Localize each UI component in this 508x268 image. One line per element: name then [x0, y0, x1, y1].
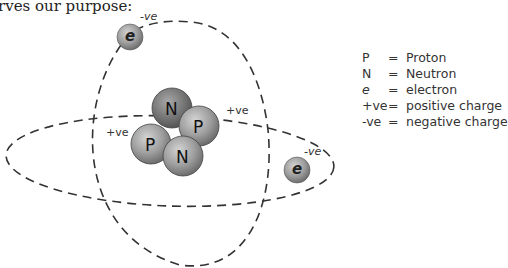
legend-equals: =: [388, 82, 406, 98]
legend-equals: =: [388, 50, 406, 66]
legend-row-positive: +ve = positive charge: [362, 98, 508, 114]
legend-row-neutron: N = Neutron: [362, 66, 508, 82]
legend-row-electron: e = electron: [362, 82, 508, 98]
electron-charge-right: -ve: [304, 145, 321, 158]
legend-equals: =: [388, 66, 406, 82]
atom-diagram: [0, 0, 508, 268]
legend-description: positive charge: [406, 98, 502, 114]
electron-label-top: e: [125, 27, 135, 45]
legend-symbol: +ve: [362, 98, 388, 114]
legend-description: negative charge: [406, 114, 508, 130]
charge-label-right: +ve: [226, 104, 249, 117]
legend-description: Neutron: [406, 66, 456, 82]
legend-symbol: e: [362, 82, 388, 98]
electron-label-right: e: [292, 160, 302, 178]
legend: P = Proton N = Neutron e = electron +ve …: [362, 50, 508, 130]
legend-row-negative: -ve = negative charge: [362, 114, 508, 130]
legend-symbol: P: [362, 50, 388, 66]
legend-symbol: -ve: [362, 114, 388, 130]
electron-charge-top: -ve: [140, 10, 157, 23]
particle-label-n-bottom: N: [176, 147, 189, 167]
legend-description: electron: [406, 82, 457, 98]
particle-label-n-top: N: [165, 99, 178, 119]
particle-label-p-left: P: [145, 135, 155, 155]
particle-label-p-right: P: [193, 117, 203, 137]
charge-label-left: +ve: [106, 126, 129, 139]
legend-row-proton: P = Proton: [362, 50, 508, 66]
legend-description: Proton: [406, 50, 446, 66]
legend-symbol: N: [362, 66, 388, 82]
legend-equals: =: [388, 114, 406, 130]
legend-equals: =: [388, 98, 406, 114]
